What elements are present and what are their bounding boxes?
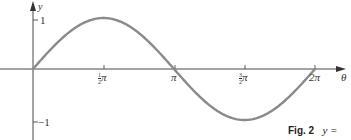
y-axis-label: y (38, 2, 42, 12)
caption-text: y = (322, 124, 337, 136)
y-tick-label-1: 1 (40, 15, 46, 26)
figure-caption: Fig. 2 y = (288, 124, 337, 136)
x-tick-label-pi: π (171, 72, 177, 83)
x-axis-label: θ (341, 72, 346, 83)
sine-plot (0, 0, 351, 140)
figure-number: Fig. 2 (288, 125, 314, 136)
x-tick-label-half-pi: 12π (98, 72, 107, 85)
y-axis-arrow-icon (30, 1, 36, 11)
x-tick-label-threehalf-pi: 32π (239, 72, 248, 85)
x-tick-label-two-pi: 2π (309, 72, 320, 83)
y-tick-label-neg1: −1 (38, 117, 50, 128)
